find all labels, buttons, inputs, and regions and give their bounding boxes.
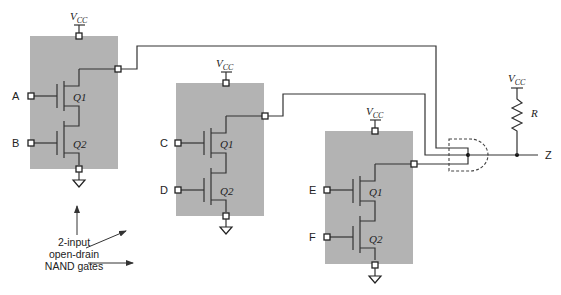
resistor-r-label: R bbox=[530, 107, 538, 119]
input-c-label: C bbox=[160, 137, 168, 149]
input-e-label: E bbox=[309, 184, 316, 196]
gate-1-output-pin bbox=[115, 66, 121, 72]
gate-1-ground-icon bbox=[73, 180, 85, 187]
gate-2-output-pin bbox=[262, 113, 268, 119]
gate-2-ground-icon bbox=[220, 227, 232, 234]
input-f-label: F bbox=[309, 231, 316, 243]
input-e-pin bbox=[324, 187, 330, 193]
arrow-to-gate-2-icon bbox=[86, 231, 126, 248]
gate-3-vcc-pin bbox=[372, 128, 378, 134]
gate-3-q1-label: Q1 bbox=[369, 186, 382, 198]
pullup-resistor: VCC R bbox=[508, 72, 538, 155]
input-d-pin bbox=[175, 187, 181, 193]
gate-3-output-pin bbox=[411, 161, 417, 167]
input-f-pin bbox=[324, 234, 330, 240]
gate-2-ground-pin bbox=[223, 213, 229, 219]
gate-2-vcc-label: VCC bbox=[216, 57, 234, 72]
output-z-label: Z bbox=[545, 149, 552, 161]
input-a-pin bbox=[28, 93, 34, 99]
resistor-icon bbox=[512, 88, 522, 155]
gate-2-q2-label: Q2 bbox=[220, 185, 234, 197]
gate-2-q1-label: Q1 bbox=[220, 138, 233, 150]
input-d-label: D bbox=[160, 184, 168, 196]
gate-1-ground-pin bbox=[76, 166, 82, 172]
gate-3-vcc-label: VCC bbox=[366, 105, 384, 120]
caption-line-3: NAND gates bbox=[45, 260, 103, 272]
caption-line-1: 2-input bbox=[58, 236, 90, 248]
resistor-vcc-label: VCC bbox=[508, 72, 526, 87]
gate-1-vcc-pin bbox=[76, 33, 82, 39]
nand-gate-2: VCC C Q1 D Q2 bbox=[160, 57, 268, 234]
gate-1-q2-label: Q2 bbox=[73, 138, 87, 150]
gate-2-vcc-pin bbox=[223, 80, 229, 86]
input-c-pin bbox=[175, 140, 181, 146]
input-a-label: A bbox=[12, 90, 20, 102]
nand-gate-3: VCC E Q1 F Q2 bbox=[309, 105, 417, 283]
caption-line-2: open-drain bbox=[49, 248, 99, 260]
gate-3-ground-pin bbox=[372, 262, 378, 268]
input-b-label: B bbox=[12, 137, 19, 149]
gate-3-q2-label: Q2 bbox=[369, 233, 383, 245]
gate-1-vcc-label: VCC bbox=[70, 10, 88, 25]
caption: 2-input open-drain NAND gates bbox=[45, 206, 133, 272]
nand-gate-1: VCC A Q1 B Q2 bbox=[12, 10, 121, 187]
input-b-pin bbox=[28, 140, 34, 146]
gate-3-ground-icon bbox=[369, 276, 381, 283]
circuit-diagram: VCC A Q1 B Q2 VCC bbox=[0, 0, 561, 295]
gate-1-q1-label: Q1 bbox=[73, 91, 86, 103]
